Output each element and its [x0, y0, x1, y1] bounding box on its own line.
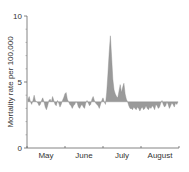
- x-month-label: July: [115, 151, 129, 160]
- x-month-label: June: [75, 151, 93, 160]
- mortality-area-chart: 0510 MayJuneJulyAugust Mortality rate pe…: [0, 0, 189, 172]
- x-axis: MayJuneJulyAugust: [27, 146, 179, 160]
- area-series: [28, 36, 178, 111]
- x-month-label: May: [38, 151, 53, 160]
- y-tick-label: 5: [18, 78, 23, 87]
- y-tick-label: 0: [18, 144, 23, 153]
- plot-area: [28, 36, 178, 111]
- x-month-label: August: [148, 151, 174, 160]
- y-tick-label: 10: [13, 12, 22, 21]
- y-axis-label: Mortality rate per 100,000: [6, 36, 15, 128]
- y-axis: 0510: [13, 12, 27, 153]
